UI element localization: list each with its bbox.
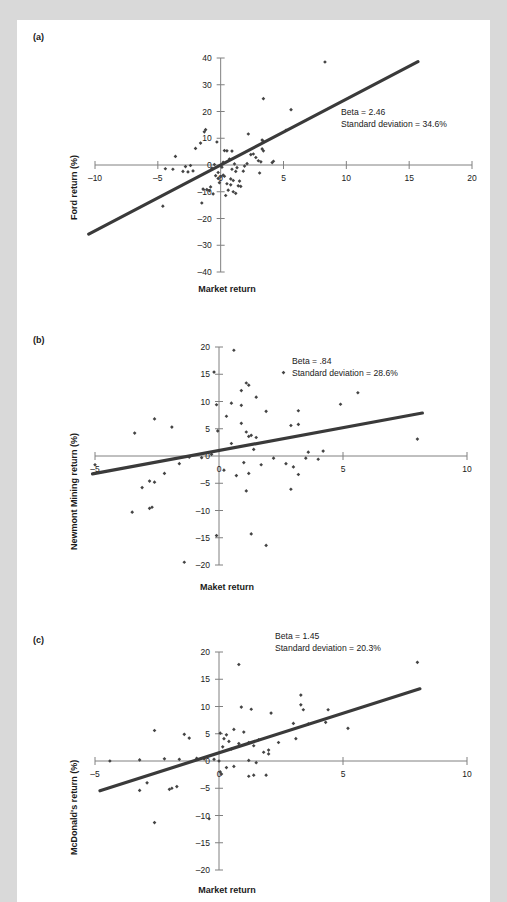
figure-page: (a) Ford return (%) Beta = 2.46 Standard… <box>0 0 507 902</box>
svg-text:5: 5 <box>341 769 346 779</box>
svg-text:–20: –20 <box>196 560 210 570</box>
svg-text:0: 0 <box>217 464 222 474</box>
svg-text:15: 15 <box>201 674 211 684</box>
svg-text:10: 10 <box>462 769 472 779</box>
svg-text:20: 20 <box>201 342 211 352</box>
svg-text:20: 20 <box>201 647 211 657</box>
svg-text:–5: –5 <box>153 173 163 183</box>
svg-text:5: 5 <box>205 729 210 739</box>
svg-text:40: 40 <box>202 53 212 63</box>
panel-b: (b) Newmont Mining return (%) Beta = .84… <box>17 315 490 605</box>
svg-text:–10: –10 <box>88 173 102 183</box>
panel-c-x-axis-label: Market return <box>147 885 307 895</box>
svg-text:–5: –5 <box>201 478 211 488</box>
panel-c-scatter-plot: –5051020151050–5–10–15–20 <box>17 610 490 882</box>
svg-text:10: 10 <box>342 173 352 183</box>
svg-text:10: 10 <box>462 464 472 474</box>
svg-text:10: 10 <box>202 133 212 143</box>
panel-a-x-axis-label: Market return <box>147 284 307 294</box>
panel-a-scatter-plot: –10–505101520403020100–10–20–30–40 <box>17 20 490 280</box>
svg-text:20: 20 <box>467 173 477 183</box>
svg-text:–20: –20 <box>196 865 210 875</box>
svg-text:10: 10 <box>201 397 211 407</box>
svg-text:5: 5 <box>341 464 346 474</box>
svg-text:20: 20 <box>202 107 212 117</box>
svg-text:5: 5 <box>281 173 286 183</box>
panel-a: (a) Ford return (%) Beta = 2.46 Standard… <box>17 20 490 310</box>
svg-text:–30: –30 <box>197 240 211 250</box>
svg-text:–15: –15 <box>196 838 210 848</box>
svg-text:15: 15 <box>404 173 414 183</box>
svg-text:30: 30 <box>202 80 212 90</box>
svg-text:–15: –15 <box>196 533 210 543</box>
svg-text:–5: –5 <box>90 769 100 779</box>
svg-text:15: 15 <box>201 369 211 379</box>
panel-b-scatter-plot: –5051020151050–5–10–15–20 <box>17 315 490 577</box>
svg-text:10: 10 <box>201 702 211 712</box>
svg-text:–20: –20 <box>197 214 211 224</box>
panel-b-x-axis-label: Maket return <box>147 582 307 592</box>
svg-text:–10: –10 <box>196 506 210 516</box>
svg-text:–5: –5 <box>201 783 211 793</box>
panel-c: (c) McDonald's return (%) Beta = 1.45 St… <box>17 610 490 902</box>
svg-text:5: 5 <box>205 424 210 434</box>
svg-text:–40: –40 <box>197 267 211 277</box>
figure-card: (a) Ford return (%) Beta = 2.46 Standard… <box>17 20 490 902</box>
